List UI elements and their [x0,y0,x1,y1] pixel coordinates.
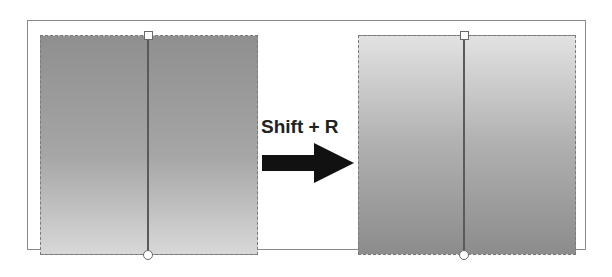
gradient-panel-after [358,35,576,255]
gradient-start-handle-after[interactable] [460,31,469,40]
gradient-panel-before [40,35,258,255]
gradient-end-handle-before[interactable] [143,250,153,260]
gradient-direction-line-before [147,39,149,255]
shortcut-label: Shift + R [261,116,339,138]
gradient-start-handle-before[interactable] [144,31,153,40]
gradient-end-handle-after[interactable] [459,250,469,260]
right-arrow-icon [262,143,354,183]
gradient-direction-line-after [463,39,465,255]
